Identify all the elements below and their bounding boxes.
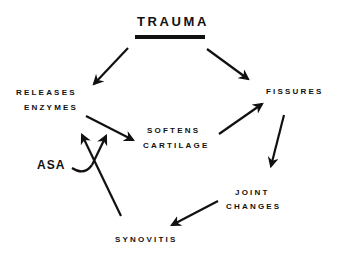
node-softens-cartilage-line2: CARTILAGE bbox=[143, 139, 209, 153]
arrow-trauma-to-fissures bbox=[207, 49, 248, 79]
inhibitor-asa: ASA bbox=[37, 158, 65, 172]
arrow-asa-to-pathway bbox=[92, 136, 106, 165]
node-joint-changes-line1: JOINT bbox=[235, 186, 270, 200]
arrow-trauma-to-releases-enzymes bbox=[94, 48, 128, 84]
arrow-softens-cartilage-to-fissures bbox=[219, 104, 262, 134]
arrow-fissures-to-joint-changes bbox=[271, 115, 284, 166]
node-joint-changes-line2: CHANGES bbox=[226, 200, 281, 214]
diagram-canvas: TRAUMA RELEASES ENZYMES FISSURES SOFTENS… bbox=[0, 0, 338, 253]
node-fissures: FISSURES bbox=[266, 85, 324, 99]
node-releases-enzymes-line1: RELEASES bbox=[16, 86, 77, 100]
node-releases-enzymes-line2: ENZYMES bbox=[24, 101, 78, 115]
title-underline bbox=[135, 35, 205, 39]
node-synovitis: SYNOVITIS bbox=[115, 233, 177, 247]
arrow-releases-enzymes-to-softens-cartilage bbox=[86, 116, 133, 140]
diagram-title: TRAUMA bbox=[137, 14, 209, 29]
node-softens-cartilage-line1: SOFTENS bbox=[147, 124, 200, 138]
arrow-joint-changes-to-synovitis bbox=[172, 201, 218, 225]
asa-connector-curve bbox=[72, 165, 92, 171]
